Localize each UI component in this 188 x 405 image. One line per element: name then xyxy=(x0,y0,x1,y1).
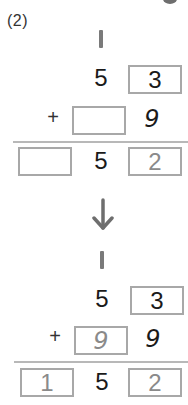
second-tens-box-solution[interactable]: 9 xyxy=(74,326,128,355)
arrow-down-icon xyxy=(92,198,114,232)
top-ones-value-solution: 3 xyxy=(150,289,163,313)
carry-mark-1 xyxy=(99,30,103,48)
second-tens-value-solution: 9 xyxy=(93,329,108,353)
second-tens-input-box[interactable] xyxy=(72,106,126,135)
sum-rule-solution xyxy=(14,361,188,363)
result-hundreds-value-solution: 1 xyxy=(40,371,53,395)
result-hundreds-box-solution[interactable]: 1 xyxy=(20,368,74,397)
result-ones-value: 2 xyxy=(148,150,161,174)
top-tens-digit-solution: 5 xyxy=(92,285,112,313)
problem-label: (2) xyxy=(7,12,28,30)
top-ones-box-solution[interactable]: 3 xyxy=(130,286,184,315)
top-ones-box[interactable]: 3 xyxy=(128,65,182,94)
decorative-dot xyxy=(163,0,177,4)
sum-rule xyxy=(13,141,188,143)
result-ones-box[interactable]: 2 xyxy=(128,147,182,176)
result-ones-box-solution[interactable]: 2 xyxy=(128,368,182,397)
second-ones-digit-solution: 9 xyxy=(143,325,163,353)
result-tens-digit: 5 xyxy=(91,147,111,175)
result-tens-digit-solution: 5 xyxy=(92,368,112,396)
second-ones-digit: 9 xyxy=(142,105,162,133)
top-tens-digit: 5 xyxy=(91,64,111,92)
plus-sign-solution: + xyxy=(49,326,61,346)
carry-mark-1-solution xyxy=(100,251,104,269)
top-ones-value: 3 xyxy=(148,68,161,92)
result-ones-value-solution: 2 xyxy=(148,371,161,395)
plus-sign: + xyxy=(47,107,59,127)
result-hundreds-input-box[interactable] xyxy=(18,147,72,176)
